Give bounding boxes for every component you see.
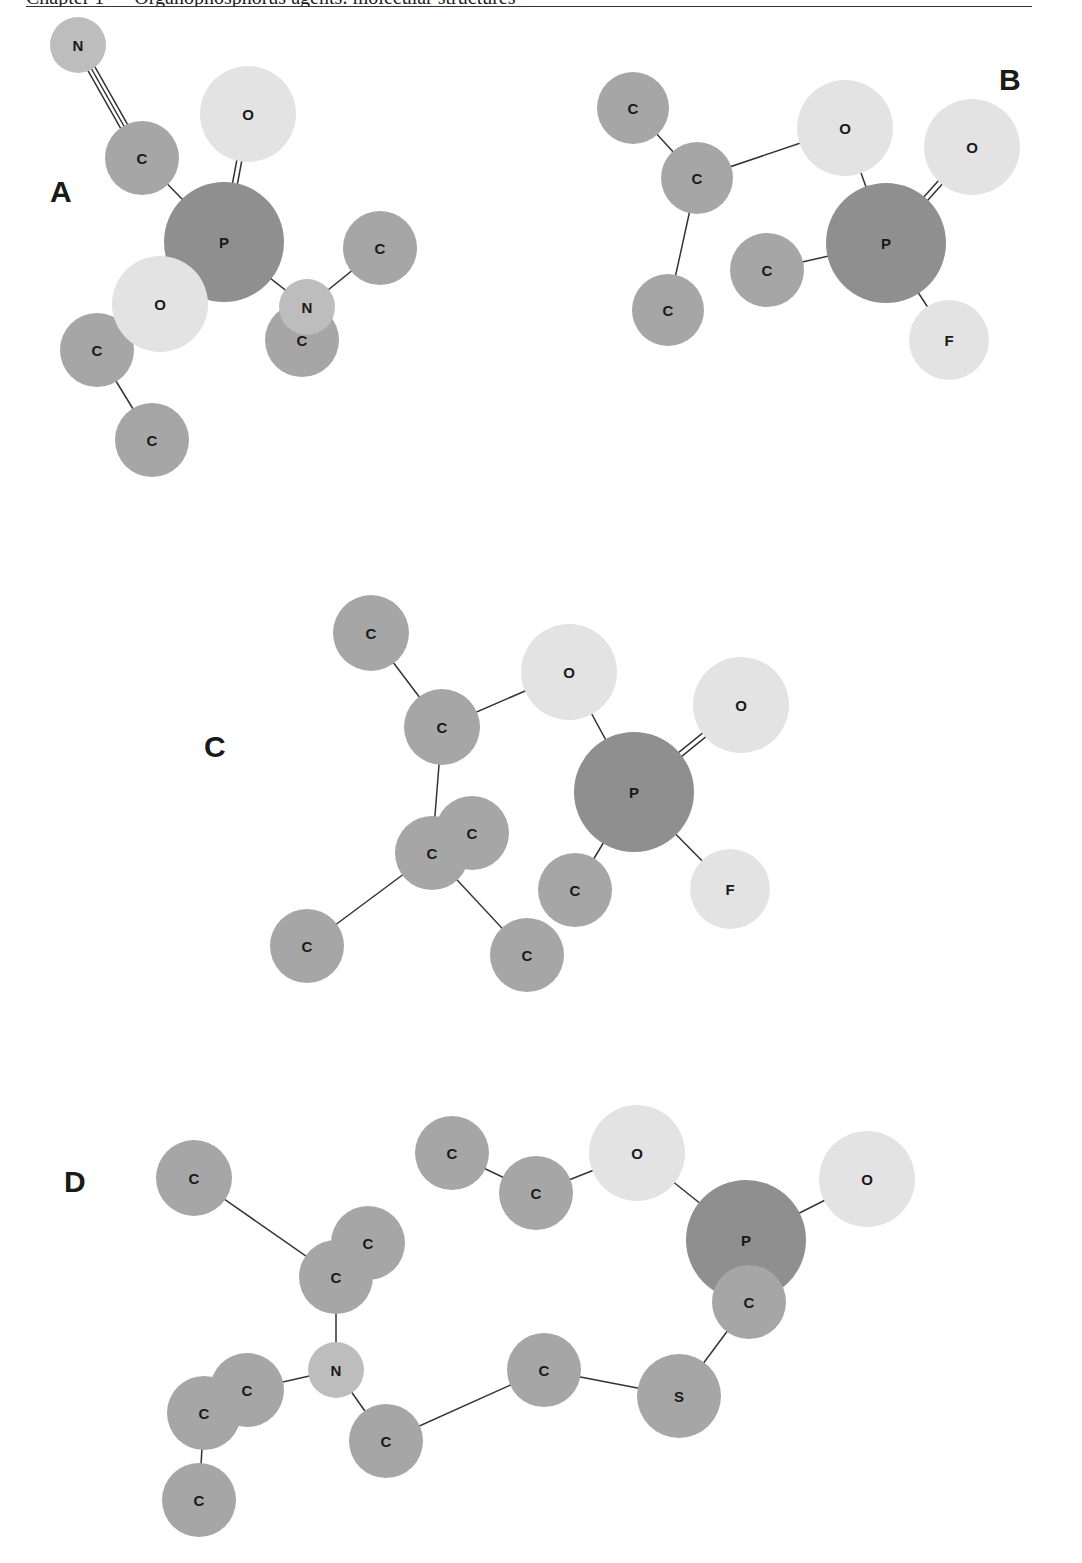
oxygen-atom: O: [819, 1131, 915, 1227]
atom-label: N: [302, 299, 313, 316]
carbon-atom: C: [115, 403, 189, 477]
carbon-atom: C: [395, 816, 469, 890]
carbon-atom: C: [167, 1376, 241, 1450]
panel-label-c: C: [204, 730, 226, 763]
atom-label: C: [522, 947, 533, 964]
atom-label: C: [539, 1362, 550, 1379]
atom-label: C: [147, 432, 158, 449]
phosphorus-atom: P: [574, 732, 694, 852]
nitrogen-atom: N: [279, 279, 335, 335]
atom-label: C: [366, 625, 377, 642]
carbon-atom: C: [415, 1116, 489, 1190]
panel-label-a: A: [50, 175, 72, 208]
atom-label: C: [762, 262, 773, 279]
panel-c-molecule: CCOOPCCCFCCC: [204, 595, 789, 992]
atom-label: C: [467, 825, 478, 842]
atom-label: O: [563, 664, 575, 681]
atom-label: C: [447, 1145, 458, 1162]
oxygen-atom: O: [112, 256, 208, 352]
carbon-atom: C: [490, 918, 564, 992]
fluorine-atom: F: [909, 300, 989, 380]
atom-label: S: [674, 1388, 684, 1405]
atom-label: C: [189, 1170, 200, 1187]
atom-label: C: [242, 1382, 253, 1399]
atom-label: O: [735, 697, 747, 714]
atom-label: C: [302, 938, 313, 955]
phosphorus-atom: P: [826, 183, 946, 303]
atom-label: C: [375, 240, 386, 257]
atom-label: C: [194, 1492, 205, 1509]
atom-label: C: [363, 1235, 374, 1252]
nitrogen-atom: N: [308, 1342, 364, 1398]
oxygen-atom: O: [521, 624, 617, 720]
atom-label: O: [861, 1171, 873, 1188]
carbon-atom: C: [712, 1265, 786, 1339]
panel-d-molecule: CCCOOCCPCNCCCSCCD: [64, 1105, 915, 1537]
atom-label: C: [570, 882, 581, 899]
carbon-atom: C: [105, 121, 179, 195]
atom-label: P: [629, 784, 639, 801]
atom-label: C: [331, 1269, 342, 1286]
carbon-atom: C: [538, 853, 612, 927]
carbon-atom: C: [632, 274, 704, 346]
oxygen-atom: O: [797, 80, 893, 176]
atom-label: C: [427, 845, 438, 862]
nitrogen-atom: N: [50, 17, 106, 73]
oxygen-atom: O: [589, 1105, 685, 1201]
atom-label: C: [437, 719, 448, 736]
atom-label: C: [92, 342, 103, 359]
atom-label: P: [741, 1232, 751, 1249]
atom-label: C: [199, 1405, 210, 1422]
atom-label: C: [692, 170, 703, 187]
atom-label: C: [744, 1294, 755, 1311]
atom-label: C: [663, 302, 674, 319]
carbon-atom: C: [343, 211, 417, 285]
carbon-atom: C: [597, 72, 669, 144]
fluorine-atom: F: [690, 849, 770, 929]
carbon-atom: C: [156, 1140, 232, 1216]
atom-label: P: [881, 235, 891, 252]
carbon-atom: C: [333, 595, 409, 671]
panel-a-molecule: NCOCPCCOCNA: [50, 17, 417, 477]
oxygen-atom: O: [924, 99, 1020, 195]
carbon-atom: C: [299, 1240, 373, 1314]
carbon-atom: C: [349, 1404, 423, 1478]
atom-label: N: [73, 37, 84, 54]
atom-label: O: [154, 296, 166, 313]
panel-label-b: B: [999, 63, 1021, 96]
atom-label: F: [944, 332, 953, 349]
carbon-atom: C: [507, 1333, 581, 1407]
atom-label: C: [628, 100, 639, 117]
atom-label: C: [531, 1185, 542, 1202]
oxygen-atom: O: [200, 66, 296, 162]
panel-label-d: D: [64, 1165, 86, 1198]
carbon-atom: C: [661, 142, 733, 214]
carbon-atom: C: [404, 689, 480, 765]
oxygen-atom: O: [693, 657, 789, 753]
sulfur-atom: S: [637, 1354, 721, 1438]
atom-label: O: [242, 106, 254, 123]
atom-label: C: [381, 1433, 392, 1450]
atom-label: N: [331, 1362, 342, 1379]
carbon-atom: C: [730, 233, 804, 307]
atom-label: O: [966, 139, 978, 156]
atom-label: O: [839, 120, 851, 137]
carbon-atom: C: [270, 909, 344, 983]
atom-label: O: [631, 1145, 643, 1162]
atom-label: F: [725, 881, 734, 898]
molecular-structures-figure: NCOCPCCOCNA CCOOPCCFB CCOOPCCCFCCC CCCOO…: [0, 0, 1082, 1563]
carbon-atom: C: [162, 1463, 236, 1537]
atom-label: P: [219, 234, 229, 251]
carbon-atom: C: [499, 1156, 573, 1230]
panel-b-molecule: CCOOPCCFB: [597, 63, 1021, 380]
atom-label: C: [137, 150, 148, 167]
